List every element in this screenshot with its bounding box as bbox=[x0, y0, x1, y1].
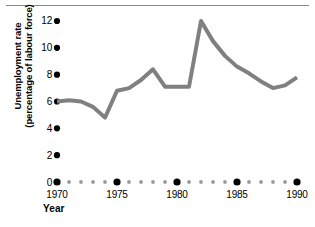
figure-container: Unemployment rate (percentage of labour … bbox=[0, 0, 315, 227]
x-tick-dot-1971 bbox=[67, 180, 71, 184]
x-tick-dot-1973 bbox=[91, 180, 95, 184]
x-tick-dot-1970 bbox=[53, 178, 60, 185]
x-tick-dot-1990 bbox=[293, 178, 300, 185]
y-tick-dot-10 bbox=[54, 45, 60, 51]
x-tick-dot-1984 bbox=[223, 180, 227, 184]
x-tick-dot-1972 bbox=[79, 180, 83, 184]
y-tick-dot-12 bbox=[54, 18, 60, 24]
y-tick-dot-4 bbox=[54, 125, 60, 131]
x-tick-dot-1988 bbox=[271, 180, 275, 184]
x-axis-tick-markers bbox=[53, 178, 300, 185]
x-tick-dot-1975 bbox=[113, 178, 120, 185]
y-tick-dot-2 bbox=[54, 152, 60, 158]
x-tick-dot-1986 bbox=[247, 180, 251, 184]
x-tick-dot-1977 bbox=[139, 180, 143, 184]
x-tick-dot-1989 bbox=[283, 180, 287, 184]
x-tick-dot-1980 bbox=[173, 178, 180, 185]
x-tick-dot-1976 bbox=[127, 180, 131, 184]
x-tick-dot-1985 bbox=[233, 178, 240, 185]
x-tick-dot-1981 bbox=[187, 180, 191, 184]
chart-plot-area bbox=[0, 0, 315, 227]
x-tick-dot-1982 bbox=[199, 180, 203, 184]
x-tick-dot-1978 bbox=[151, 180, 155, 184]
x-tick-dot-1983 bbox=[211, 180, 215, 184]
x-tick-dot-1987 bbox=[259, 180, 263, 184]
x-tick-dot-1979 bbox=[163, 180, 167, 184]
y-tick-dot-8 bbox=[54, 72, 60, 78]
x-tick-dot-1974 bbox=[103, 180, 107, 184]
unemployment-rate-line bbox=[57, 21, 297, 118]
